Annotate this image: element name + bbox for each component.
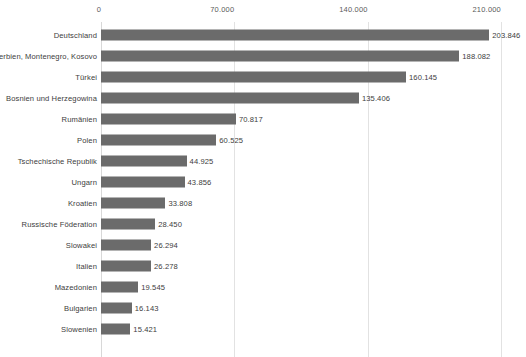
bar-chart: 070.000140.000210.000 Deutschland203.846… <box>0 0 526 357</box>
bar-value-label: 70.817 <box>239 114 263 123</box>
bar-value-label: 26.278 <box>154 261 178 270</box>
bar-value-label: 43.856 <box>188 177 212 186</box>
bar <box>101 239 151 250</box>
bar-value-label: 33.808 <box>168 198 192 207</box>
bar-value-label: 26.294 <box>154 240 178 249</box>
x-axis-tick: 70.000 <box>210 5 234 14</box>
x-axis-tick: 210.000 <box>472 5 501 14</box>
bar-row: Bulgarien16.143 <box>0 297 526 318</box>
bar-value-label: 19.545 <box>141 282 165 291</box>
category-label: Mazedonien <box>55 282 97 291</box>
bar-value-label: 188.082 <box>462 51 490 60</box>
category-label: Ungarn <box>71 177 97 186</box>
category-label: Bosnien und Herzegowina <box>6 93 97 102</box>
category-label: Rumänien <box>62 114 97 123</box>
category-label: Tschechische Republik <box>18 156 97 165</box>
bar <box>101 155 187 166</box>
bar-row: Slowenien15.421 <box>0 318 526 339</box>
bar-value-label: 16.143 <box>135 303 159 312</box>
bar-value-label: 44.925 <box>190 156 214 165</box>
bar-rows: Deutschland203.846Serbien, Montenegro, K… <box>0 22 526 357</box>
bar-row: Mazedonien19.545 <box>0 276 526 297</box>
category-label: Serbien, Montenegro, Kosovo <box>0 51 97 60</box>
category-label: Slowakei <box>66 240 97 249</box>
bar <box>101 50 459 61</box>
bar <box>101 29 489 40</box>
bar <box>101 92 359 103</box>
bar-row: Polen60.525 <box>0 129 526 150</box>
category-label: Slowenien <box>61 324 97 333</box>
bar-row: Tschechische Republik44.925 <box>0 150 526 171</box>
category-label: Polen <box>77 135 97 144</box>
bar-row: Bosnien und Herzegowina135.406 <box>0 87 526 108</box>
category-label: Deutschland <box>54 30 97 39</box>
bar-value-label: 203.846 <box>492 30 520 39</box>
bar <box>101 71 406 82</box>
bar-row: Serbien, Montenegro, Kosovo188.082 <box>0 45 526 66</box>
bar <box>101 260 151 271</box>
bar <box>101 218 155 229</box>
bar <box>101 323 130 334</box>
bar <box>101 134 216 145</box>
bar <box>101 197 165 208</box>
category-label: Kroatien <box>68 198 97 207</box>
bar-value-label: 160.145 <box>409 72 437 81</box>
bar-value-label: 28.450 <box>158 219 182 228</box>
bar-row: Ungarn43.856 <box>0 171 526 192</box>
bar <box>101 302 132 313</box>
x-axis-tick: 140.000 <box>339 5 368 14</box>
category-label: Italien <box>76 261 97 270</box>
bar-row: Kroatien33.808 <box>0 192 526 213</box>
bar-row: Türkei160.145 <box>0 66 526 87</box>
bar-row: Rumänien70.817 <box>0 108 526 129</box>
bar-row: Deutschland203.846 <box>0 24 526 45</box>
category-label: Russische Föderation <box>22 219 97 228</box>
x-axis-tick: 0 <box>97 5 101 14</box>
bar-value-label: 60.525 <box>219 135 243 144</box>
bar <box>101 176 185 187</box>
bar-row: Italien26.278 <box>0 255 526 276</box>
bar-value-label: 135.406 <box>362 93 390 102</box>
bar <box>101 113 236 124</box>
bar-row: Slowakei26.294 <box>0 234 526 255</box>
bar-value-label: 15.421 <box>133 324 157 333</box>
x-axis-tick-labels: 070.000140.000210.000 <box>0 0 526 22</box>
category-label: Bulgarien <box>64 303 97 312</box>
category-label: Türkei <box>75 72 97 81</box>
bar-row: Russische Föderation28.450 <box>0 213 526 234</box>
bar <box>101 281 138 292</box>
